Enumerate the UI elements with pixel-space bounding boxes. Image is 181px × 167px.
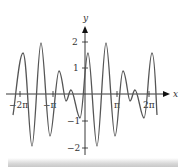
x-tick-neg2pi: −2π	[9, 100, 28, 110]
y-tick-1: 1	[73, 63, 79, 73]
y-tick-2: 2	[72, 37, 78, 47]
bottom-gradient-bar	[8, 158, 178, 167]
function-plot: x y 2 1 −1 −2 −2π −π π 2π	[0, 0, 181, 167]
y-axis-label: y	[82, 13, 89, 23]
y-tick-neg2: −2	[67, 143, 80, 153]
x-axis-arrow-icon	[163, 91, 170, 97]
y-axis-arrow-icon	[82, 26, 88, 33]
y-tick-neg1: −1	[67, 116, 80, 126]
x-axis-label: x	[173, 89, 178, 99]
x-tick-2pi: 2π	[143, 100, 155, 110]
